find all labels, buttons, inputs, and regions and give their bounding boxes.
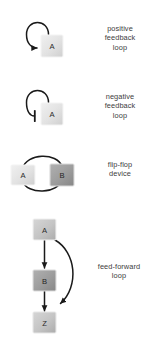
node-B-flipflop: B	[50, 164, 74, 186]
motif-negative-feedback-loop: A	[27, 91, 64, 126]
node-A-flipflop: A	[11, 165, 35, 185]
edge-A-to-Z-bypass	[55, 240, 73, 304]
node-label-B: B	[59, 171, 64, 180]
node-B-feedforward: B	[33, 270, 56, 291]
node-A-negative: A	[41, 103, 63, 125]
motif-label-positive-feedback-loop: positive feedback loop	[86, 24, 154, 52]
node-label-Z: Z	[42, 319, 47, 328]
motif-flip-flop-device: A B	[11, 156, 74, 191]
motif-label-feed-forward-loop: feed-forward loop	[82, 262, 156, 281]
motif-label-negative-feedback-loop: negative feedback loop	[86, 92, 154, 120]
node-A-positive: A	[41, 35, 63, 57]
motif-label-flip-flop-device: flip-flop device	[86, 160, 154, 179]
node-Z-feedforward: Z	[33, 312, 56, 333]
motif-feed-forward-loop: A B Z	[33, 219, 73, 333]
node-A-feedforward: A	[33, 219, 56, 240]
motif-positive-feedback-loop: A	[27, 23, 64, 58]
node-label-B: B	[42, 277, 47, 286]
